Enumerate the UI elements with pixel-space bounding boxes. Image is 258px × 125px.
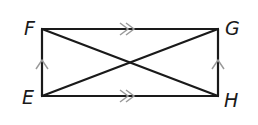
vertex-label-h: H <box>224 89 238 111</box>
geometry-diagram: F G E H <box>0 0 258 125</box>
vertex-label-e: E <box>22 86 34 108</box>
vertex-label-f: F <box>24 17 36 39</box>
vertex-label-g: G <box>225 17 240 39</box>
